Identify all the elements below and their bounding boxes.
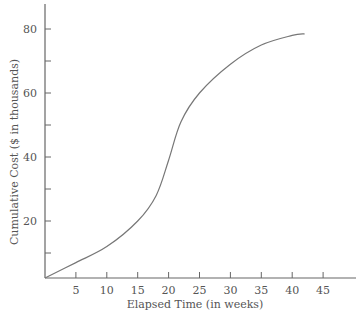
y-axis-title: Cumulative Cost ($ in thousands) [8, 59, 21, 245]
x-tick-label: 40 [285, 284, 299, 297]
y-tick-label: 60 [23, 87, 37, 100]
y-tick-label: 20 [23, 215, 37, 228]
x-tick-label: 35 [254, 284, 268, 297]
axes [45, 4, 356, 278]
cumulative-cost-curve [45, 34, 305, 278]
x-tick-label: 15 [131, 284, 145, 297]
y-tick-label: 80 [23, 23, 37, 36]
x-tick-label: 5 [72, 284, 79, 297]
x-tick-label: 30 [223, 284, 237, 297]
y-tick-label: 40 [23, 151, 37, 164]
ticks: 5101520253035404520406080 [23, 23, 330, 297]
x-axis-title: Elapsed Time (in weeks) [127, 298, 264, 311]
x-tick-label: 20 [162, 284, 176, 297]
s-curve-chart: 5101520253035404520406080 Elapsed Time (… [0, 0, 362, 321]
x-tick-label: 10 [100, 284, 114, 297]
x-tick-label: 45 [316, 284, 330, 297]
x-tick-label: 25 [193, 284, 207, 297]
